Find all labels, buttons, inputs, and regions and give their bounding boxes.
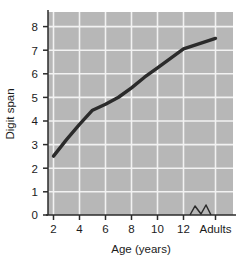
x-tick-label-6: 6 [102,223,108,235]
y-tick-label-5: 5 [32,92,38,104]
chart-figure: 8 7 6 5 4 3 2 1 0 2 4 6 8 10 12 Adults A… [0,0,242,261]
y-tick-label-3: 3 [32,139,38,151]
y-tick-label-1: 1 [32,186,38,198]
x-axis-title: Age (years) [111,243,171,255]
y-tick-label-8: 8 [32,21,38,33]
x-tick-label-adults: Adults [200,223,232,235]
x-tick-label-8: 8 [128,223,134,235]
x-tick-label-4: 4 [76,223,83,235]
y-axis-title: Digit span [4,88,16,139]
x-tick-label-2: 2 [50,223,56,235]
x-tick-label-10: 10 [151,223,164,235]
y-tick-label-4: 4 [32,115,39,127]
y-tick-label-2: 2 [32,163,38,175]
y-tick-label-0: 0 [32,209,38,221]
x-tick-label-12: 12 [177,223,190,235]
y-tick-label-6: 6 [32,68,38,80]
y-tick-label-7: 7 [32,45,38,57]
